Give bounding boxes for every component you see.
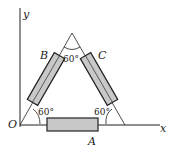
origin-label: O [8, 118, 17, 131]
bottom-right-angle-label: 60° [94, 107, 110, 117]
block-c-label: C [98, 49, 107, 62]
triangle-blocks-diagram: y x O A B C 60° 60° 60° [0, 0, 175, 150]
bottom-left-angle-label: 60° [38, 107, 54, 117]
x-axis-label: x [160, 122, 167, 135]
block-a [47, 118, 98, 131]
block-a-label: A [87, 135, 96, 148]
apex-angle-arc [64, 47, 80, 50]
y-axis-label: y [22, 8, 30, 21]
block-b-label: B [39, 49, 48, 62]
apex-angle-label: 60° [63, 54, 79, 64]
